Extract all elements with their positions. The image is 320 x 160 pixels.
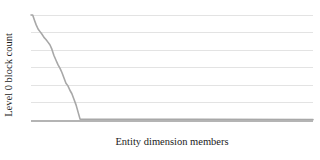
series-line-level-0-block-count xyxy=(31,15,313,120)
chart-figure: Level 0 block count Entity dimension mem… xyxy=(0,0,320,160)
plot-area xyxy=(31,15,313,120)
x-axis-label: Entity dimension members xyxy=(31,136,313,147)
y-axis-label: Level 0 block count xyxy=(1,23,17,128)
x-axis-line xyxy=(31,120,313,122)
